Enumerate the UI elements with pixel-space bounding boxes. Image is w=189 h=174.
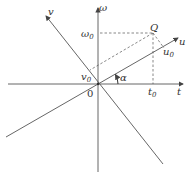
- diagram-svg: t ω u v 0 Q ω0 t0 u0 v0 α: [0, 0, 189, 174]
- omega0-label: ω0: [81, 28, 94, 41]
- v-axis: [46, 16, 163, 164]
- u0-label: u0: [163, 46, 174, 59]
- angle-alpha-label: α: [120, 72, 127, 83]
- t0-label: t0: [148, 86, 157, 99]
- rotated-axes-diagram: t ω u v 0 Q ω0 t0 u0 v0 α: [0, 0, 189, 174]
- projection-lines: [90, 33, 164, 84]
- v-axis-label: v: [48, 6, 54, 17]
- point-q-label: Q: [150, 22, 158, 33]
- t-axis-label: t: [177, 86, 182, 97]
- origin-point: [97, 83, 99, 85]
- angle-arc: [116, 75, 119, 85]
- origin-label: 0: [87, 88, 93, 99]
- v0-label: v0: [81, 71, 92, 84]
- u-axis-label: u: [179, 36, 185, 47]
- omega-axis-label: ω: [99, 2, 107, 13]
